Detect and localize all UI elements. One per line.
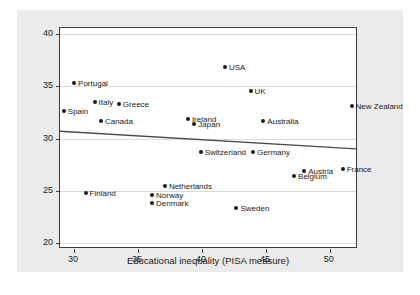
y-tick-label: 40 (43, 28, 53, 38)
x-tick-mark (330, 249, 331, 253)
trend-line (60, 28, 356, 247)
scatter-point-label: Portugal (78, 79, 108, 88)
scatter-point[interactable] (99, 119, 103, 123)
scatter-point-label: Germany (257, 148, 290, 157)
scatter-point-label: Japan (198, 119, 220, 128)
scatter-point[interactable] (249, 89, 253, 93)
scatter-point[interactable] (341, 167, 345, 171)
x-tick-label: 30 (68, 254, 78, 264)
scatter-point-label: Denmark (156, 199, 188, 208)
scatter-point-label: Canada (105, 116, 133, 125)
scatter-point-label: Finland (90, 188, 116, 197)
x-tick-mark (266, 249, 267, 253)
scatter-point[interactable] (84, 191, 88, 195)
scatter-point-label: France (347, 164, 372, 173)
x-tick-label: 35 (132, 254, 142, 264)
x-tick-mark (202, 249, 203, 253)
scatter-point[interactable] (199, 150, 203, 154)
x-tick-label: 40 (196, 254, 206, 264)
y-tick-label: 35 (43, 80, 53, 90)
scatter-point[interactable] (350, 104, 354, 108)
scatter-point-label: Spain (68, 107, 88, 116)
y-tick-label: 30 (43, 133, 53, 143)
chart-figure: Social inequality (Gini index) Education… (17, 10, 403, 272)
scatter-point-label: Belgium (298, 172, 327, 181)
scatter-point-label: Sweden (240, 204, 269, 213)
scatter-point-label: Greece (123, 100, 149, 109)
scatter-point-label: New Zealand (356, 102, 403, 111)
scatter-point-label: Australia (267, 116, 298, 125)
scatter-point[interactable] (186, 117, 190, 121)
y-tick-label: 25 (43, 185, 53, 195)
scatter-point[interactable] (93, 100, 97, 104)
scatter-point-label: Switzerland (205, 148, 246, 157)
scatter-point-label: USA (229, 62, 245, 71)
scatter-point-label: UK (255, 86, 266, 95)
x-tick-label: 50 (324, 254, 334, 264)
x-axis-label: Educational inequality (PISA measure) (59, 255, 357, 266)
scatter-point[interactable] (150, 193, 154, 197)
scatter-point[interactable] (117, 102, 121, 106)
y-tick-label: 20 (43, 237, 53, 247)
scatter-point-label: Italy (99, 98, 114, 107)
scatter-point[interactable] (223, 65, 227, 69)
x-tick-mark (138, 249, 139, 253)
x-tick-label: 45 (260, 254, 270, 264)
plot-area: PortugalSpainItalyGreeceCanadaUSAUKNew Z… (59, 27, 357, 248)
x-tick-mark (74, 249, 75, 253)
